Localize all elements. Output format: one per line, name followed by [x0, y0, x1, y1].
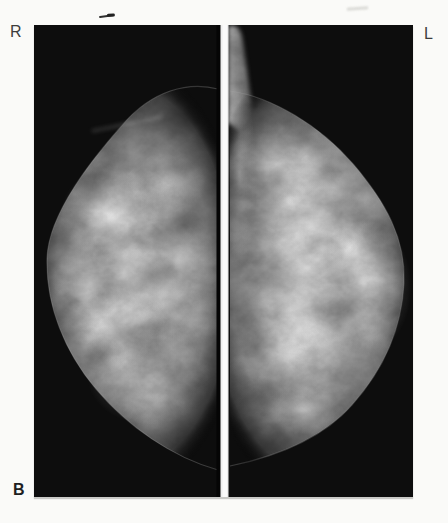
- film-margin-ink-mark: [99, 12, 117, 20]
- radiograph-image: [34, 25, 413, 497]
- mammogram-film: [34, 25, 413, 497]
- scan-smudge: [347, 6, 368, 10]
- panel-label: B: [13, 483, 25, 497]
- ink-dash: [107, 13, 115, 16]
- film-divider-core: [223, 25, 228, 497]
- orientation-marker-right: R: [10, 25, 22, 39]
- orientation-marker-left: L: [424, 27, 433, 41]
- scanned-page: R L B: [0, 0, 448, 523]
- film-gap-shadow: [217, 25, 221, 497]
